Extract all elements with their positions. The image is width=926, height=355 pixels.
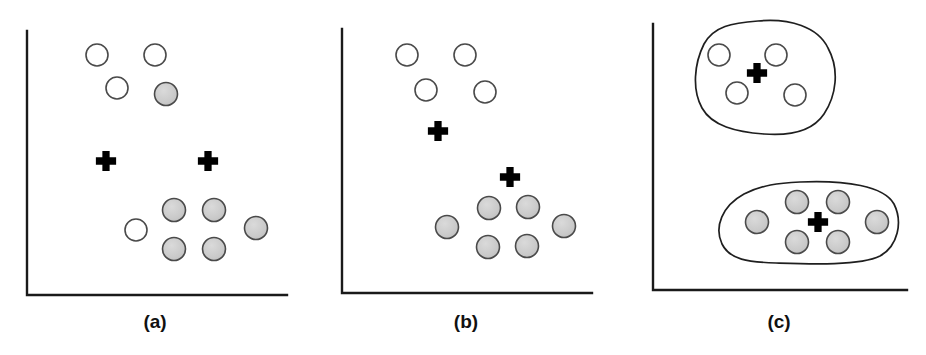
centroid-plus-marker	[428, 121, 448, 141]
data-point-shaded-circle	[517, 196, 540, 219]
data-point-open-circle	[474, 81, 496, 103]
clustering-figure: (a)(b)(c)	[0, 0, 926, 355]
centroid-plus-marker	[808, 212, 828, 232]
data-point-open-circle	[144, 44, 166, 66]
data-point-shaded-circle	[866, 211, 889, 234]
data-point-open-circle	[454, 44, 476, 66]
data-point-shaded-circle	[478, 197, 501, 220]
panel-b-axes	[342, 29, 592, 293]
panel-a: (a)	[27, 31, 287, 332]
panel-caption-b: (b)	[454, 311, 478, 332]
figure-canvas: (a)(b)(c)	[0, 0, 926, 355]
data-point-open-circle	[784, 84, 806, 106]
data-point-shaded-circle	[203, 199, 226, 222]
panel-caption-a: (a)	[143, 311, 166, 332]
data-point-shaded-circle	[436, 216, 459, 239]
centroid-plus-marker	[198, 151, 218, 171]
data-point-shaded-circle	[516, 235, 539, 258]
data-point-shaded-circle	[163, 238, 186, 261]
data-point-shaded-circle	[163, 199, 186, 222]
data-point-open-circle	[765, 44, 787, 66]
data-point-shaded-circle	[245, 217, 268, 240]
data-point-shaded-circle	[155, 83, 178, 106]
data-point-open-circle	[86, 44, 108, 66]
cluster-boundary-top	[695, 20, 835, 134]
data-point-shaded-circle	[203, 238, 226, 261]
data-point-open-circle	[726, 82, 748, 104]
centroid-plus-marker	[747, 63, 767, 83]
data-point-shaded-circle	[786, 231, 809, 254]
data-point-open-circle	[106, 77, 128, 99]
panel-b: (b)	[342, 29, 592, 332]
data-point-shaded-circle	[746, 211, 769, 234]
data-point-shaded-circle	[827, 191, 850, 214]
data-point-shaded-circle	[827, 231, 850, 254]
panel-a-axes	[27, 31, 287, 295]
data-point-open-circle	[415, 79, 437, 101]
data-point-open-circle	[708, 44, 730, 66]
data-point-open-circle	[125, 219, 147, 241]
data-point-open-circle	[396, 44, 418, 66]
panel-caption-c: (c)	[767, 311, 790, 332]
centroid-plus-marker	[96, 151, 116, 171]
panels-root: (a)(b)(c)	[27, 20, 907, 332]
data-point-shaded-circle	[477, 236, 500, 259]
panel-c: (c)	[653, 20, 907, 332]
data-point-shaded-circle	[786, 191, 809, 214]
data-point-shaded-circle	[553, 215, 576, 238]
centroid-plus-marker	[500, 167, 520, 187]
